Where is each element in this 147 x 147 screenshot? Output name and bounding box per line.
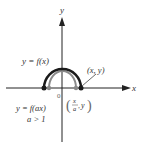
transformation-diagram: y x 0 y = f(x) (x, y) y = f(ax) a > 1 ( … xyxy=(0,0,147,147)
close-paren: ) xyxy=(87,98,92,114)
y-axis-label: y xyxy=(59,5,64,15)
x-axis-arrow-icon xyxy=(122,85,131,91)
point-y: y xyxy=(80,101,85,110)
original-curve-label: y = f(x) xyxy=(21,56,49,66)
fraction-denominator: a xyxy=(73,105,76,112)
fraction-numerator: x xyxy=(72,97,76,104)
transformed-point-label: ( x a , y ) xyxy=(66,97,92,114)
point-pointer-line xyxy=(82,74,96,86)
original-point-label: (x, y) xyxy=(87,65,105,75)
transformed-curve-label: y = f(ax) xyxy=(15,103,46,113)
transformed-point-left xyxy=(47,86,51,90)
original-point-left xyxy=(42,86,47,91)
origin-label: 0 xyxy=(57,92,61,100)
open-paren: ( xyxy=(66,98,71,114)
x-axis-label: x xyxy=(131,83,136,93)
transformed-condition-label: a > 1 xyxy=(27,114,46,124)
original-point-right xyxy=(79,86,84,91)
y-axis-arrow-icon xyxy=(59,17,65,26)
transformed-point-right xyxy=(74,86,78,90)
comma: , xyxy=(78,101,80,110)
